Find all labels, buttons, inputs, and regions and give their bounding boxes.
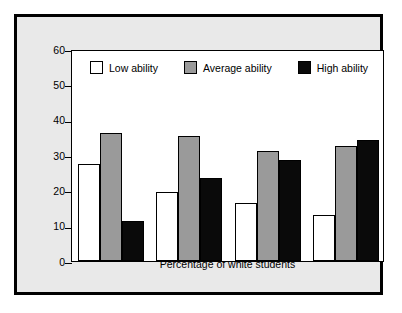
bar-50-90-average-ability	[257, 151, 279, 261]
bar-10-50-high-ability	[200, 178, 222, 261]
y-tick-mark-50	[65, 86, 72, 87]
y-tick-mark-30	[65, 157, 72, 158]
bar-0-10-low-ability	[78, 164, 100, 261]
bar-90-100-high-ability	[357, 140, 379, 261]
y-tick-label-60: 60	[35, 45, 65, 55]
y-tick-label-50: 50	[35, 80, 65, 90]
y-tick-label-30: 30	[35, 151, 65, 161]
y-tick-label-10: 10	[35, 221, 65, 231]
y-tick-mark-40	[65, 122, 72, 123]
bar-0-10-average-ability	[100, 133, 122, 261]
bar-90-100-average-ability	[335, 146, 357, 261]
y-tick-label-40: 40	[35, 115, 65, 125]
plot-area: Low ability Average ability High ability	[71, 50, 384, 262]
bar-50-90-high-ability	[279, 160, 301, 261]
bar-10-50-average-ability	[178, 136, 200, 261]
figure-frame: Percentage of homogeneous ability classe…	[14, 14, 383, 295]
bar-0-10-high-ability	[122, 221, 144, 261]
bar-50-90-low-ability	[235, 203, 257, 261]
y-tick-mark-60	[65, 51, 72, 52]
y-tick-label-20: 20	[35, 186, 65, 196]
y-tick-mark-0	[65, 263, 72, 264]
y-tick-mark-10	[65, 228, 72, 229]
bar-series-container	[72, 51, 383, 261]
bar-10-50-low-ability	[156, 192, 178, 261]
y-tick-mark-20	[65, 192, 72, 193]
y-tick-label-0: 0	[35, 257, 65, 267]
figure-container: Percentage of homogeneous ability classe…	[0, 0, 402, 313]
bar-90-100-low-ability	[313, 215, 335, 261]
